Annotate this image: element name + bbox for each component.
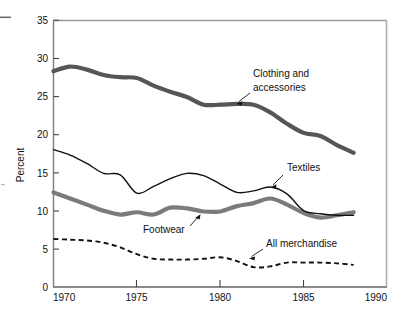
- line-chart: 35 30 25 20 15 10 5 0 1970 1975 1980 198…: [0, 0, 407, 320]
- y-tick-label-10: 10: [37, 206, 49, 217]
- y-tick-label-20: 20: [37, 129, 49, 140]
- chart-background: [0, 0, 407, 320]
- scan-artifact-left-mark: [1, 184, 5, 185]
- x-tick-label-1980: 1980: [209, 292, 232, 303]
- series-label-footwear: Footwear: [143, 224, 185, 235]
- x-tick-label-1975: 1975: [125, 292, 148, 303]
- y-tick-label-25: 25: [37, 91, 49, 102]
- y-axis-title: Percent: [15, 148, 26, 183]
- y-tick-label-15: 15: [37, 168, 49, 179]
- x-tick-label-1990: 1990: [365, 292, 388, 303]
- y-tick-label-0: 0: [42, 282, 48, 293]
- series-label-clothing-line1: Clothing and: [253, 68, 309, 79]
- scan-artifact-top-dash: [0, 17, 11, 19]
- chart-figure: 35 30 25 20 15 10 5 0 1970 1975 1980 198…: [0, 0, 407, 320]
- x-tick-label-1985: 1985: [292, 292, 315, 303]
- x-tick-label-1970: 1970: [53, 292, 76, 303]
- y-tick-label-30: 30: [37, 53, 49, 64]
- series-label-textiles: Textiles: [287, 162, 320, 173]
- y-tick-label-35: 35: [37, 15, 49, 26]
- series-label-clothing-line2: accessories: [253, 82, 306, 93]
- series-label-all-merchandise: All merchandise: [266, 238, 338, 249]
- y-tick-label-5: 5: [42, 244, 48, 255]
